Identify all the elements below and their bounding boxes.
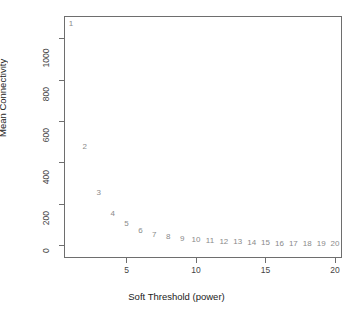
data-point-label: 19 — [317, 240, 326, 248]
y-tick-mark — [59, 245, 64, 246]
plot-area — [64, 16, 342, 258]
chart-title — [0, 0, 353, 2]
y-tick-label: 400 — [42, 170, 51, 184]
x-tick-label: 15 — [261, 266, 270, 275]
y-tick-label: 200 — [42, 211, 51, 225]
data-point-label: 2 — [83, 143, 87, 151]
data-point-label: 17 — [289, 240, 298, 248]
data-point-label: 12 — [219, 238, 228, 246]
data-point-label: 5 — [124, 220, 128, 228]
x-tick-mark — [265, 258, 266, 263]
y-tick-mark — [59, 204, 64, 205]
x-tick-label: 5 — [124, 266, 129, 275]
x-tick-label: 20 — [330, 266, 339, 275]
data-point-label: 8 — [166, 233, 170, 241]
y-tick-label: 0 — [42, 248, 51, 253]
y-axis-title: Mean Connectivity — [0, 59, 8, 137]
data-point-label: 6 — [138, 227, 142, 235]
data-point-label: 20 — [331, 240, 340, 248]
data-point-label: 1 — [69, 20, 73, 28]
data-point-label: 4 — [110, 210, 114, 218]
x-tick-mark — [126, 258, 127, 263]
data-point-label: 9 — [180, 235, 184, 243]
data-point-label: 3 — [97, 189, 101, 197]
x-tick-mark — [196, 258, 197, 263]
data-point-label: 18 — [303, 240, 312, 248]
y-tick-label: 800 — [42, 87, 51, 101]
data-point-label: 16 — [275, 240, 284, 248]
data-point-label: 11 — [206, 237, 214, 245]
chart-figure: 1234567891011121314151617181920 5101520 … — [0, 0, 353, 318]
y-tick-mark — [59, 162, 64, 163]
data-point-label: 10 — [192, 236, 201, 244]
y-tick-mark — [59, 38, 64, 39]
data-point-label: 15 — [261, 239, 270, 247]
x-tick-label: 10 — [191, 266, 200, 275]
y-tick-mark — [59, 121, 64, 122]
data-point-label: 14 — [247, 239, 256, 247]
y-tick-mark — [59, 80, 64, 81]
y-tick-label: 1000 — [42, 48, 51, 67]
data-point-label: 13 — [233, 238, 242, 246]
x-axis-title: Soft Threshold (power) — [0, 292, 353, 302]
data-point-label: 7 — [152, 231, 156, 239]
x-tick-mark — [335, 258, 336, 263]
y-tick-label: 600 — [42, 129, 51, 143]
